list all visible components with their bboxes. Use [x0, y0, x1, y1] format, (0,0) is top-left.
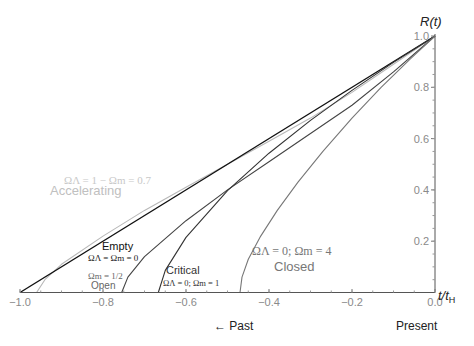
y-tick-label: 0.4 — [414, 184, 429, 196]
present-annotation: Present — [396, 319, 438, 333]
open-label: Open — [91, 280, 115, 291]
y-tick-label: 0.8 — [414, 81, 429, 93]
past-annotation: ← Past — [214, 319, 254, 333]
critical-params: ΩΛ = 0; Ωm = 1 — [163, 278, 219, 288]
plot-area: −1.0−0.8−0.6−0.4−0.20.00.20.40.60.81.0 R… — [0, 0, 474, 346]
critical-label: Critical — [166, 264, 200, 276]
x-tick-label: −0.6 — [175, 296, 197, 308]
accelerating-label: Accelerating — [50, 183, 122, 198]
y-axis-label: R(t) — [420, 14, 442, 29]
empty-params: ΩΛ = Ωm = 0 — [88, 253, 139, 263]
y-tick-label: 1.0 — [414, 30, 429, 42]
x-axis-label: t/tH — [438, 288, 455, 305]
closed-label: Closed — [274, 259, 314, 274]
y-tick-label: 0.2 — [414, 235, 429, 247]
y-tick-label: 0.6 — [414, 133, 429, 145]
closed-params: ΩΛ = 0; Ωm = 4 — [252, 244, 331, 258]
x-tick-label: −1.0 — [9, 296, 31, 308]
x-tick-label: −0.4 — [258, 296, 280, 308]
chart-figure: −1.0−0.8−0.6−0.4−0.20.00.20.40.60.81.0 R… — [0, 0, 474, 346]
x-tick-label: −0.8 — [92, 296, 114, 308]
empty-label: Empty — [102, 240, 134, 252]
x-tick-label: −0.2 — [341, 296, 363, 308]
empty-curve — [20, 36, 435, 293]
curves — [20, 36, 435, 293]
